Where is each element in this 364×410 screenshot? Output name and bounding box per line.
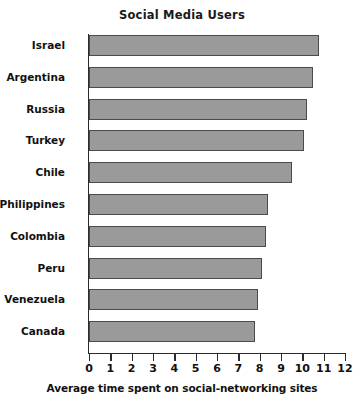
x-tick-label: 3 — [149, 362, 157, 375]
bar-turkey — [89, 130, 304, 151]
bar-philippines — [89, 194, 268, 215]
bar-row: Chile — [89, 162, 345, 183]
x-tick — [89, 354, 90, 361]
bar-row: Israel — [89, 35, 345, 56]
x-tick-label: 9 — [277, 362, 285, 375]
bar-series: IsraelArgentinaRussiaTurkeyChilePhilippi… — [89, 34, 345, 353]
bar-row: Argentina — [89, 67, 345, 88]
bar-argentina — [89, 67, 313, 88]
bar-row: Peru — [89, 258, 345, 279]
category-label-colombia: Colombia — [0, 226, 65, 247]
bar-venezuela — [89, 289, 258, 310]
category-label-israel: Israel — [0, 35, 65, 56]
bar-canada — [89, 321, 255, 342]
bar-row: Russia — [89, 99, 345, 120]
bar-chile — [89, 162, 292, 183]
x-tick — [238, 354, 239, 361]
bar-row: Venezuela — [89, 289, 345, 310]
x-axis-tick-labels: 0123456789101112 — [89, 362, 345, 378]
x-tick-label: 10 — [295, 362, 310, 375]
x-tick-label: 6 — [213, 362, 221, 375]
x-tick — [110, 354, 111, 361]
bar-row: Turkey — [89, 130, 345, 151]
x-tick — [324, 354, 325, 361]
x-tick — [345, 354, 346, 361]
x-axis-title: Average time spent on social-networking … — [0, 382, 364, 394]
category-label-turkey: Turkey — [0, 130, 65, 151]
x-tick — [174, 354, 175, 361]
x-tick-label: 4 — [171, 362, 179, 375]
x-tick-label: 7 — [235, 362, 243, 375]
x-tick-label: 5 — [192, 362, 200, 375]
bar-row: Canada — [89, 321, 345, 342]
x-tick-label: 2 — [128, 362, 136, 375]
x-axis-ticks — [89, 354, 345, 362]
bar-chart: Social Media Users IsraelArgentinaRussia… — [0, 0, 364, 410]
category-label-chile: Chile — [0, 162, 65, 183]
x-tick — [196, 354, 197, 361]
bar-colombia — [89, 226, 266, 247]
x-tick-label: 12 — [337, 362, 352, 375]
bar-russia — [89, 99, 307, 120]
x-tick-label: 1 — [107, 362, 115, 375]
x-tick — [260, 354, 261, 361]
x-tick-label: 8 — [256, 362, 264, 375]
x-tick-label: 11 — [316, 362, 331, 375]
bar-row: Colombia — [89, 226, 345, 247]
x-tick — [217, 354, 218, 361]
bar-row: Philippines — [89, 194, 345, 215]
x-tick-label: 0 — [85, 362, 93, 375]
category-label-argentina: Argentina — [0, 67, 65, 88]
bar-israel — [89, 35, 319, 56]
category-label-philippines: Philippines — [0, 194, 65, 215]
x-tick — [153, 354, 154, 361]
x-tick — [132, 354, 133, 361]
x-tick — [281, 354, 282, 361]
plot-area: IsraelArgentinaRussiaTurkeyChilePhilippi… — [89, 34, 345, 353]
x-tick — [302, 354, 303, 361]
chart-title: Social Media Users — [0, 8, 364, 22]
category-label-peru: Peru — [0, 258, 65, 279]
category-label-venezuela: Venezuela — [0, 289, 65, 310]
category-label-canada: Canada — [0, 321, 65, 342]
bar-peru — [89, 258, 262, 279]
category-label-russia: Russia — [0, 99, 65, 120]
